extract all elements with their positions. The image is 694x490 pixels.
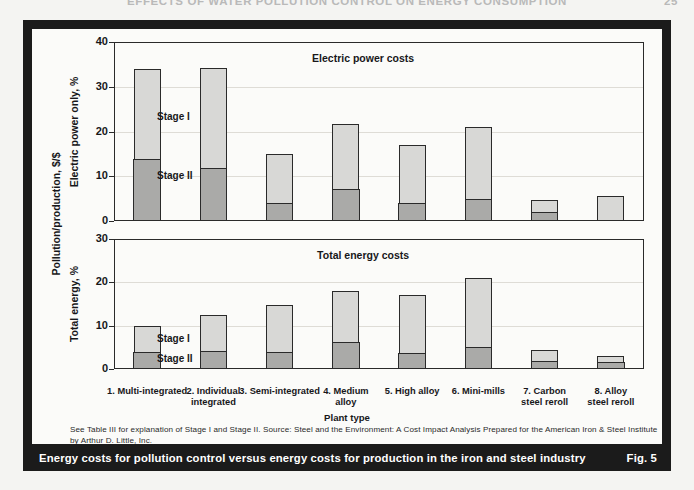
y-tick-label: 40	[82, 36, 108, 47]
y-tick-mark	[109, 369, 114, 370]
bar-segment-stage2	[465, 199, 493, 221]
figure-caption-bar: Energy costs for pollution control versu…	[23, 444, 671, 471]
running-head-title: EFFECTS OF WATER POLLUTION CONTROL ON EN…	[127, 0, 567, 7]
x-category-label-line: steel reroll	[569, 397, 653, 408]
series-label-stage2-total: Stage II	[157, 353, 193, 364]
bar-stacked	[531, 200, 558, 221]
x-category-label-line: integrated	[171, 397, 255, 408]
bar-segment-stage2	[266, 352, 294, 369]
bar-segment-stage2	[398, 353, 426, 369]
bar-segment-stage2	[597, 362, 625, 369]
bar-stacked	[465, 278, 492, 369]
figure-inner: Pollution/production, $/$ Electric power…	[32, 29, 662, 444]
x-category-label-line: alloy	[304, 397, 388, 408]
bar-stacked	[134, 69, 161, 221]
y-tick-label: 0	[82, 363, 108, 374]
y-tick-label: 20	[82, 126, 108, 137]
bar-segment-stage2	[531, 212, 559, 221]
bar-stacked	[332, 124, 359, 221]
figure-caption-text: Energy costs for pollution control versu…	[39, 452, 627, 464]
bar-segment-stage2	[200, 351, 228, 369]
y-axis-title-electric-power: Electric power only, %	[68, 76, 80, 187]
bar-stacked	[266, 305, 293, 369]
plot-area-electric-power	[114, 42, 644, 221]
running-head: EFFECTS OF WATER POLLUTION CONTROL ON EN…	[0, 0, 694, 9]
x-axis-title: Plant type	[32, 412, 662, 423]
bar-segment-stage2	[200, 168, 228, 222]
y-axis-title-total-energy: Total energy, %	[68, 266, 80, 342]
bar-stacked	[332, 291, 359, 369]
bar-segment-stage2	[133, 159, 161, 222]
bar-segment-stage2	[332, 189, 360, 222]
bar-stacked	[597, 356, 624, 369]
figure-number: Fig. 5	[627, 452, 657, 464]
y-tick-mark	[109, 221, 114, 222]
bar-stacked	[597, 196, 624, 221]
y-tick-label: 20	[82, 276, 108, 287]
x-category-label: 8. Alloysteel reroll	[569, 386, 653, 408]
bar-stacked	[531, 350, 558, 369]
figure-frame: Pollution/production, $/$ Electric power…	[23, 20, 671, 444]
bar-segment-stage2	[332, 342, 360, 369]
series-label-stage1-total: Stage I	[157, 333, 190, 344]
y-tick-label: 10	[82, 170, 108, 181]
x-category-label-line: 8. Alloy	[569, 386, 653, 397]
bar-stacked	[399, 145, 426, 221]
page-number: 25	[664, 0, 678, 7]
bar-segment-stage2	[398, 203, 426, 221]
bar-segment-stage2	[266, 203, 294, 221]
figure-footnote: See Table III for explanation of Stage I…	[70, 425, 660, 446]
series-label-stage1-electric: Stage I	[157, 111, 190, 122]
y-tick-label: 10	[82, 320, 108, 331]
bar-segment-stage2	[531, 361, 559, 369]
series-label-stage2-electric: Stage II	[157, 170, 193, 181]
bar-stacked	[465, 127, 492, 221]
y-tick-label: 30	[82, 233, 108, 244]
y-tick-label: 0	[82, 215, 108, 226]
bar-stacked	[200, 315, 227, 369]
y-tick-label: 30	[82, 81, 108, 92]
y-axis-title-outer: Pollution/production, $/$	[50, 152, 62, 275]
bar-stacked	[200, 68, 227, 221]
bar-stacked	[399, 295, 426, 369]
bar-segment-stage2	[465, 347, 493, 370]
plot-area-total-energy	[114, 239, 644, 369]
bar-stacked	[266, 154, 293, 221]
